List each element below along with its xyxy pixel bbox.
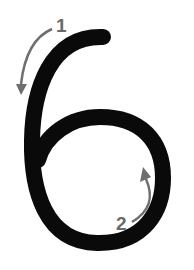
step-2-label: 2 bbox=[116, 214, 127, 233]
step-1-label: 1 bbox=[56, 16, 67, 35]
arrowhead-1-icon bbox=[16, 84, 27, 95]
digit-six-diagram bbox=[0, 0, 194, 270]
